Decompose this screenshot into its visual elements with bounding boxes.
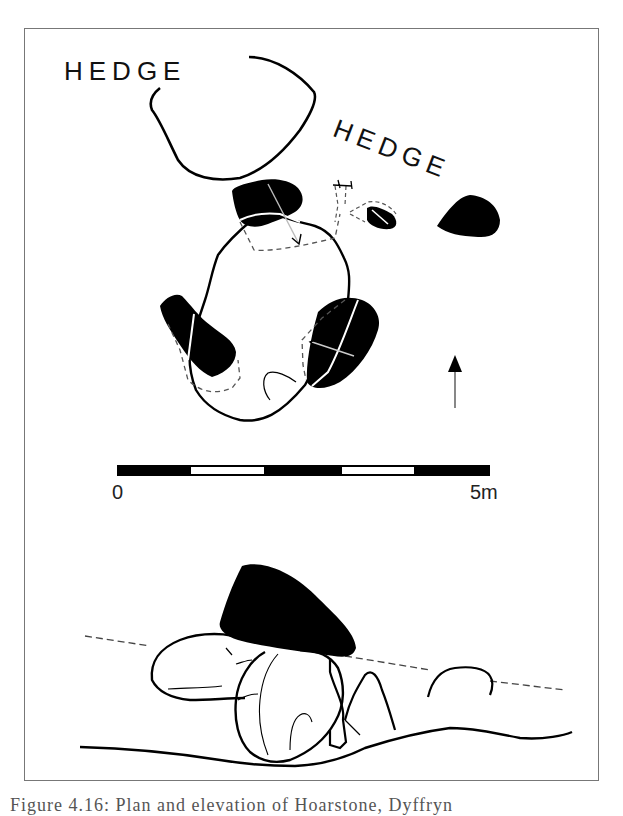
- left-support-stone: [152, 634, 245, 700]
- right-orthostat-line: [345, 720, 360, 735]
- far-right-stone: [428, 667, 492, 697]
- central-boulder: [236, 650, 343, 762]
- north-arrow-icon: [448, 355, 462, 408]
- right-support-stone: [330, 658, 346, 748]
- chamber-inner-arc: [264, 372, 296, 400]
- stone-east: [307, 298, 379, 388]
- stone-west: [160, 295, 236, 377]
- scale-start-label: 0: [112, 481, 123, 504]
- scale-bar: [117, 465, 490, 476]
- outlier-stone: [437, 195, 500, 237]
- figure-caption: Figure 4.16: Plan and elevation of Hoars…: [10, 795, 453, 816]
- central-boulder-detail: [238, 654, 312, 755]
- hedge-label-left: HEDGE: [64, 56, 186, 87]
- scale-end-label: 5m: [470, 481, 498, 504]
- capstone: [220, 564, 356, 656]
- right-orthostat: [345, 672, 395, 730]
